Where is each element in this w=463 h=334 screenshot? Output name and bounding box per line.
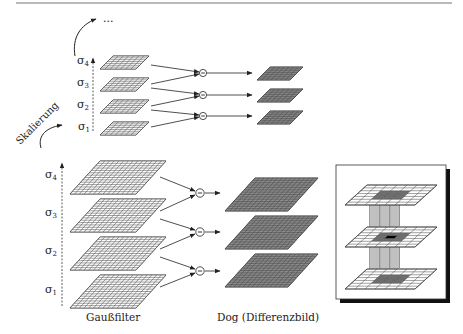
continuation-dots: ... [103, 12, 114, 25]
small-arrow-in-a-0 [151, 65, 199, 72]
scale-arrow-bottom-icon [40, 125, 62, 148]
small-minus-icon-2 [199, 112, 206, 119]
svg-text:σ3: σ3 [45, 206, 57, 220]
large-sigma-labels: σ4 σ3 σ2 σ1 [45, 168, 58, 297]
small-sigma-labels: σ4 σ3 σ2 σ1 [77, 54, 90, 134]
large-arrow-in-b-0 [160, 195, 195, 211]
small-dog-grid-1 [257, 111, 303, 124]
svg-text:σ4: σ4 [45, 168, 58, 182]
large-minus-icon-0 [196, 189, 204, 197]
small-arrow-in-a-2 [151, 110, 199, 115]
svg-text:σ1: σ1 [78, 120, 90, 134]
small-minus-icon-0 [199, 69, 206, 76]
large-gauss-grid-3 [70, 199, 166, 232]
large-arrow-in-a-1 [160, 219, 195, 230]
extrema-inset [336, 165, 450, 303]
large-arrow-in-b-1 [160, 234, 195, 249]
svg-text:σ4: σ4 [77, 54, 90, 68]
large-minus-icon-1 [196, 228, 204, 236]
dog-pyramid-diagram: ... Skalierung σ4 σ3 σ2 σ1 σ4 σ3 σ2 σ1 G… [0, 0, 463, 334]
large-dog-grid-3 [225, 178, 318, 211]
small-dog-grid-2 [257, 89, 303, 102]
large-minus-icon-2 [196, 267, 204, 275]
small-gauss-grid-2 [100, 100, 149, 113]
large-gauss-grid-4 [70, 161, 166, 194]
large-arrow-in-a-0 [160, 177, 195, 191]
svg-text:σ2: σ2 [77, 98, 89, 112]
dog-caption: Dog (Differenzbild) [217, 311, 319, 323]
small-gauss-grid-4 [100, 56, 149, 69]
small-dog-grid-3 [257, 67, 303, 80]
scale-label: Skalierung [14, 99, 61, 146]
svg-text:σ2: σ2 [45, 244, 57, 258]
small-arrow-in-a-1 [151, 88, 199, 94]
large-gauss-grid-1 [70, 275, 166, 308]
small-arrow-in-b-0 [151, 74, 199, 84]
svg-text:σ3: σ3 [77, 76, 89, 90]
large-arrow-in-a-2 [160, 257, 195, 269]
svg-text:σ1: σ1 [45, 283, 57, 297]
large-dog-grid-2 [225, 216, 318, 249]
gauss-caption: Gaußfilter [86, 311, 141, 323]
scale-arrow-top-icon [74, 19, 96, 56]
large-dog-grid-1 [225, 254, 318, 287]
large-gauss-grid-2 [70, 237, 166, 270]
small-gauss-grid-3 [100, 78, 149, 91]
small-arrow-in-b-1 [151, 96, 199, 106]
small-minus-icon-1 [199, 91, 206, 98]
small-arrow-in-b-2 [151, 117, 199, 127]
small-gauss-grid-1 [100, 122, 149, 135]
